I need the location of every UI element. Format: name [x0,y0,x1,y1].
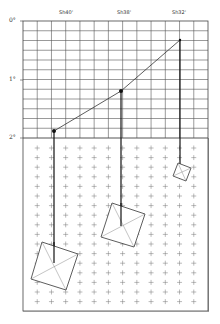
square-small [173,163,191,181]
square-medium [101,203,145,247]
y-label-2: 2° [9,133,16,140]
y-axis: 0° 1° 2° [9,16,23,140]
time-label-1: Sh40' [59,9,73,15]
time-label-2: Sh38' [117,9,131,15]
time-label-3: Sh32' [172,9,186,15]
diagram-canvas: 0° 1° 2° Sh40' Sh38' Sh32' [0,0,220,324]
y-label-1: 1° [9,75,16,82]
sun-path [54,40,180,131]
y-label-0: 0° [9,16,16,23]
